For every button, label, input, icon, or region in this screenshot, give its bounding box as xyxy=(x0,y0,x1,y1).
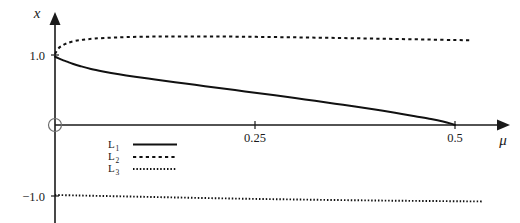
series-curve-L3 xyxy=(55,195,483,201)
bifurcation-diagram-figure: 0.25 0.5 1.0 −1.0 x μ L 1 L xyxy=(0,0,520,223)
axis-titles-group: x μ xyxy=(33,5,508,148)
chart-svg: 0.25 0.5 1.0 −1.0 x μ L 1 L xyxy=(0,0,520,223)
x-axis-title: μ xyxy=(498,132,507,148)
legend-label-L1: L xyxy=(108,138,115,150)
legend-item-L1: L 1 xyxy=(108,138,177,153)
legend-sublabel-L3: 3 xyxy=(116,168,120,177)
legend-sublabel-L1: 1 xyxy=(116,144,120,153)
y-tick-label-minus-1.0: −1.0 xyxy=(22,190,45,204)
x-axis-arrowhead xyxy=(497,120,510,131)
data-curves-group xyxy=(55,36,483,201)
tick-labels-group: 0.25 0.5 1.0 −1.0 xyxy=(22,49,463,204)
axes-group xyxy=(49,12,511,223)
legend-sublabel-L2: 2 xyxy=(116,156,120,165)
y-axis-arrowhead xyxy=(50,12,61,25)
x-tick-label-0.5: 0.5 xyxy=(447,131,463,145)
legend-label-L2: L xyxy=(108,150,115,162)
series-curve-L2 xyxy=(55,36,471,54)
legend-label-L3: L xyxy=(108,162,115,174)
legend: L 1 L 2 L 3 xyxy=(108,138,177,177)
series-curve-L1 xyxy=(55,57,455,125)
x-tick-label-0.25: 0.25 xyxy=(244,131,266,145)
y-axis-title: x xyxy=(33,5,41,21)
y-tick-label-1.0: 1.0 xyxy=(29,49,45,63)
